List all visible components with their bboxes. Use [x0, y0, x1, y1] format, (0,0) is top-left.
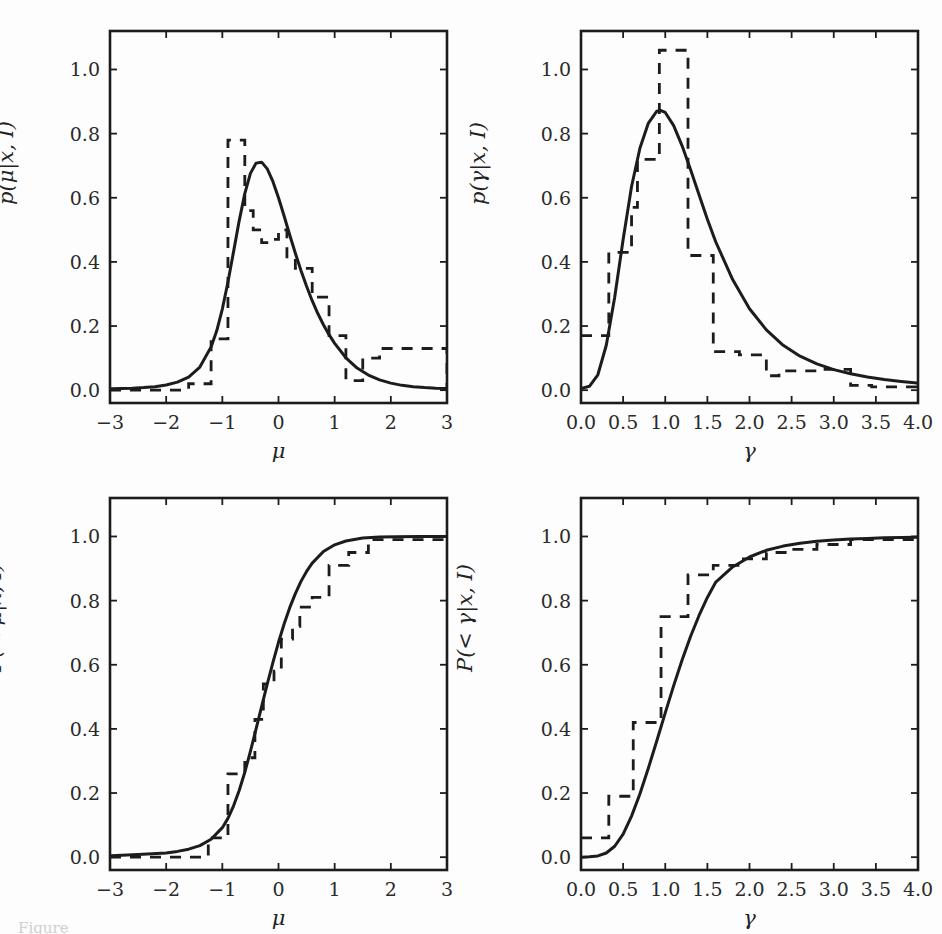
x-tick-label: 3.5	[861, 878, 891, 900]
x-tick-label: 2.5	[777, 411, 807, 433]
x-tick-label: −2	[152, 411, 180, 433]
y-tick-label: 0.8	[541, 123, 571, 145]
y-tick-label: 0.0	[70, 379, 100, 401]
chart-panel-posterior-pdf-mu: −3−2−101230.00.20.40.60.81.0μp(μ|x, I)	[0, 0, 471, 467]
x-tick-label: 3	[441, 411, 453, 433]
x-tick-label: 3.0	[819, 878, 849, 900]
y-tick-label: 0.8	[541, 590, 571, 612]
x-tick-label: −3	[96, 411, 124, 433]
y-tick-label: 1.0	[70, 525, 100, 547]
y-axis-label: p(γ|x, I)	[466, 122, 490, 205]
x-tick-label: 1	[329, 411, 341, 433]
x-axis-label: γ	[743, 439, 756, 463]
curve-analytic-cdf	[110, 536, 447, 855]
x-tick-label: 0	[272, 878, 284, 900]
y-tick-label: 0.6	[70, 654, 100, 676]
x-tick-label: 1.0	[650, 878, 680, 900]
x-tick-label: 3	[441, 878, 453, 900]
x-tick-label: −2	[152, 878, 180, 900]
curve-analytic-cdf	[581, 537, 918, 857]
x-tick-label: 1.5	[692, 411, 722, 433]
x-tick-label: 2	[385, 878, 397, 900]
y-axis-label: P(< μ|x, I)	[0, 563, 6, 672]
y-tick-label: 1.0	[541, 58, 571, 80]
y-tick-label: 0.6	[541, 187, 571, 209]
y-tick-label: 0.4	[70, 251, 100, 273]
chart-panel-posterior-cdf-mu: −3−2−101230.00.20.40.60.81.0μP(< μ|x, I)	[0, 467, 471, 934]
y-tick-label: 1.0	[541, 525, 571, 547]
step-empirical-cdf	[581, 540, 918, 838]
x-tick-label: 3.0	[819, 411, 849, 433]
x-tick-label: 1.5	[692, 878, 722, 900]
figure-container: −3−2−101230.00.20.40.60.81.0μp(μ|x, I) 0…	[0, 0, 942, 934]
step-sampled-histogram	[110, 140, 447, 390]
y-tick-label: 0.2	[541, 782, 571, 804]
x-tick-label: 4.0	[903, 878, 933, 900]
x-tick-label: 0.0	[566, 878, 596, 900]
y-tick-label: 0.2	[70, 315, 100, 337]
x-tick-label: 2.5	[777, 878, 807, 900]
y-axis-label: P(< γ|x, I)	[453, 564, 477, 672]
x-tick-label: 0.5	[608, 411, 638, 433]
y-tick-label: 0.8	[70, 123, 100, 145]
y-tick-label: 0.6	[70, 187, 100, 209]
y-tick-label: 0.4	[541, 718, 571, 740]
step-empirical-cdf	[110, 540, 447, 857]
x-tick-label: 3.5	[861, 411, 891, 433]
chart-panel-posterior-pdf-gamma: 0.00.51.01.52.02.53.03.54.00.00.20.40.60…	[471, 0, 942, 467]
x-tick-label: 1.0	[650, 411, 680, 433]
curve-analytic-posterior	[110, 162, 447, 389]
y-tick-label: 0.8	[70, 590, 100, 612]
x-tick-label: −3	[96, 878, 124, 900]
x-tick-label: 4.0	[903, 411, 933, 433]
step-sampled-histogram	[581, 50, 918, 387]
x-tick-label: 2.0	[734, 878, 764, 900]
x-tick-label: −1	[208, 411, 236, 433]
y-axis-label: p(μ|x, I)	[0, 121, 18, 205]
x-tick-label: 0.0	[566, 411, 596, 433]
y-tick-label: 0.4	[541, 251, 571, 273]
y-tick-label: 0.2	[70, 782, 100, 804]
x-tick-label: 2	[385, 411, 397, 433]
x-tick-label: 0.5	[608, 878, 638, 900]
y-tick-label: 0.6	[541, 654, 571, 676]
y-tick-label: 0.0	[541, 846, 571, 868]
x-tick-label: 0	[272, 411, 284, 433]
y-tick-label: 0.2	[541, 315, 571, 337]
y-tick-label: 0.0	[541, 379, 571, 401]
y-tick-label: 0.4	[70, 718, 100, 740]
y-tick-label: 1.0	[70, 58, 100, 80]
x-axis-label: μ	[272, 439, 286, 463]
x-tick-label: 2.0	[734, 411, 764, 433]
y-tick-label: 0.0	[70, 846, 100, 868]
curve-analytic-posterior	[581, 111, 918, 389]
x-tick-label: 1	[329, 878, 341, 900]
x-tick-label: −1	[208, 878, 236, 900]
figure-caption: Figure	[18, 919, 924, 934]
chart-panel-posterior-cdf-gamma: 0.00.51.01.52.02.53.03.54.00.00.20.40.60…	[471, 467, 942, 934]
